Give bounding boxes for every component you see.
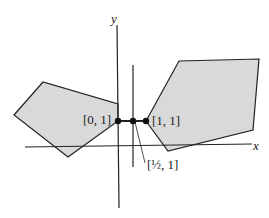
- diagram: y x [0, 1] [1, 1] [½, 1]: [0, 0, 269, 218]
- right-polygon: [146, 59, 259, 151]
- label-1-1: [1, 1]: [152, 114, 180, 127]
- x-axis-label: x: [253, 139, 259, 152]
- diagram-canvas: [0, 0, 269, 218]
- point-half-1: [130, 118, 136, 124]
- point-1-1: [143, 118, 149, 124]
- leader-line: [135, 122, 145, 163]
- point-0-1: [115, 118, 121, 124]
- label-0-1: [0, 1]: [83, 113, 111, 126]
- y-axis-label: y: [111, 12, 117, 25]
- label-half-1: [½, 1]: [147, 158, 178, 171]
